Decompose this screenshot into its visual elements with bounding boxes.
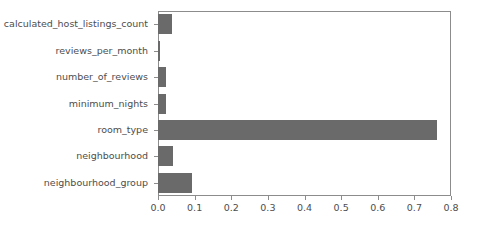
bar-room_type	[158, 120, 437, 140]
x-tick-mark	[341, 196, 342, 200]
y-tick-label-minimum_nights: minimum_nights	[0, 99, 148, 109]
bar-minimum_nights	[158, 94, 166, 114]
bar-reviews_per_month	[158, 41, 160, 61]
x-tick-label-0.3: 0.3	[260, 202, 275, 213]
x-tick-label-0.7: 0.7	[407, 202, 422, 213]
bar-calculated_host_listings_count	[158, 14, 172, 34]
bar-neighbourhood_group	[158, 173, 192, 193]
x-tick-mark	[451, 196, 452, 200]
x-tick-mark	[231, 196, 232, 200]
x-tick-label-0.2: 0.2	[224, 202, 239, 213]
y-tick-label-neighbourhood: neighbourhood	[0, 152, 148, 162]
x-tick-label-0.4: 0.4	[297, 202, 312, 213]
y-tick-label-reviews_per_month: reviews_per_month	[0, 46, 148, 56]
x-tick-mark	[268, 196, 269, 200]
bar-number_of_reviews	[158, 67, 166, 87]
x-tick-mark	[305, 196, 306, 200]
bar-neighbourhood	[158, 146, 173, 166]
x-tick-mark	[158, 196, 159, 200]
x-tick-label-0.1: 0.1	[187, 202, 202, 213]
x-tick-mark	[414, 196, 415, 200]
x-tick-label-0.8: 0.8	[443, 202, 458, 213]
x-tick-mark	[195, 196, 196, 200]
plot-area	[158, 11, 451, 196]
x-tick-label-0.5: 0.5	[334, 202, 349, 213]
x-tick-mark	[378, 196, 379, 200]
x-tick-label-0.6: 0.6	[370, 202, 385, 213]
x-tick-label-0.0: 0.0	[150, 202, 165, 213]
y-tick-label-room_type: room_type	[0, 125, 148, 135]
y-tick-label-number_of_reviews: number_of_reviews	[0, 72, 148, 82]
y-tick-label-calculated_host_listings_count: calculated_host_listings_count	[0, 19, 148, 29]
y-tick-label-neighbourhood_group: neighbourhood_group	[0, 178, 148, 188]
bar-chart-figure: neighbourhood_groupneighbourhoodroom_typ…	[0, 0, 477, 226]
